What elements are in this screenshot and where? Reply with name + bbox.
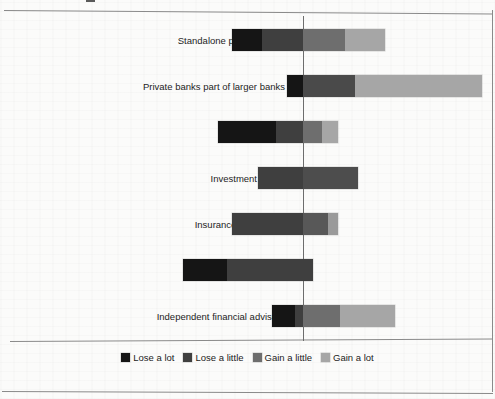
legend-label: Gain a little bbox=[265, 352, 313, 363]
stacked-bar bbox=[232, 29, 385, 51]
bar-segment bbox=[227, 259, 313, 281]
stacked-bar bbox=[183, 259, 313, 281]
bar-segment bbox=[303, 305, 340, 327]
legend-item: Lose a lot bbox=[121, 352, 174, 363]
category-label: Investment banks bbox=[85, 173, 285, 185]
legend-swatch-icon bbox=[121, 353, 130, 362]
bar-segment bbox=[340, 305, 395, 327]
bar-segment bbox=[183, 259, 227, 281]
bar-row: Insurance companies bbox=[0, 208, 495, 254]
bar-segment bbox=[328, 213, 338, 235]
stacked-bar bbox=[258, 167, 358, 189]
bar-segment bbox=[303, 213, 328, 235]
frame-bottom-rule bbox=[2, 391, 493, 394]
bar-segment bbox=[295, 305, 303, 327]
bar-row: Stock brokers bbox=[0, 254, 495, 300]
bar-row: Retail banks bbox=[0, 116, 495, 162]
figure-page: Standalone private banksPrivate banks pa… bbox=[0, 0, 495, 399]
bar-segment bbox=[287, 75, 303, 97]
stacked-bar bbox=[287, 75, 482, 97]
category-label: Independent financial advisors bbox=[85, 311, 285, 323]
bar-segment bbox=[303, 167, 358, 189]
bar-segment bbox=[262, 29, 303, 51]
bar-segment bbox=[355, 75, 482, 97]
bar-row: Private banks part of larger banks bbox=[0, 70, 495, 116]
bar-segment bbox=[322, 121, 338, 143]
stacked-bar bbox=[218, 121, 338, 143]
bar-segment bbox=[258, 167, 303, 189]
bar-segment bbox=[272, 305, 295, 327]
bar-segment bbox=[303, 121, 322, 143]
bar-segment bbox=[232, 213, 303, 235]
legend-label: Lose a lot bbox=[133, 352, 174, 363]
bar-row: Standalone private banks bbox=[0, 24, 495, 70]
legend-item: Lose a little bbox=[183, 352, 243, 363]
legend-label: Gain a lot bbox=[333, 352, 374, 363]
chart-plot-area: Standalone private banksPrivate banks pa… bbox=[0, 0, 495, 345]
legend-item: Gain a lot bbox=[321, 352, 374, 363]
stacked-bar bbox=[272, 305, 395, 327]
category-label: Private banks part of larger banks bbox=[85, 81, 285, 93]
bar-segment bbox=[345, 29, 385, 51]
bar-row: Independent financial advisors bbox=[0, 300, 495, 346]
chart-legend: Lose a lotLose a littleGain a littleGain… bbox=[0, 352, 495, 363]
bar-row: Investment banks bbox=[0, 162, 495, 208]
legend-swatch-icon bbox=[183, 353, 192, 362]
legend-item: Gain a little bbox=[253, 352, 313, 363]
bar-segment bbox=[303, 29, 345, 51]
legend-swatch-icon bbox=[253, 353, 262, 362]
bar-segment bbox=[303, 75, 355, 97]
bar-segment bbox=[276, 121, 303, 143]
stacked-bar bbox=[232, 213, 338, 235]
bar-segment bbox=[218, 121, 276, 143]
legend-swatch-icon bbox=[321, 353, 330, 362]
bar-segment bbox=[232, 29, 262, 51]
legend-label: Lose a little bbox=[195, 352, 243, 363]
